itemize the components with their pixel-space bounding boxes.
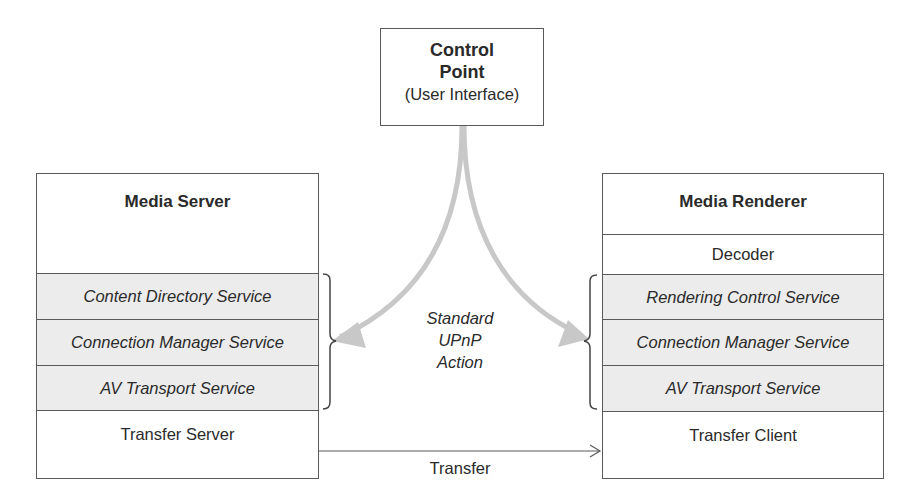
- control-point-subtitle: (User Interface): [381, 83, 543, 105]
- action-label: Standard UPnP Action: [400, 307, 520, 373]
- media-server-title: Media Server: [37, 174, 318, 273]
- service-connection-manager: Connection Manager Service: [603, 319, 883, 365]
- control-point-title: Control Point: [417, 39, 507, 83]
- service-connection-manager: Connection Manager Service: [37, 319, 318, 365]
- action-arrow-right: [464, 126, 580, 334]
- transfer-server: Transfer Server: [37, 410, 318, 477]
- service-content-directory: Content Directory Service: [37, 273, 318, 319]
- decoder: Decoder: [603, 234, 883, 274]
- transfer-label: Transfer: [400, 459, 520, 478]
- media-renderer-title: Media Renderer: [603, 174, 883, 234]
- control-point-box: Control Point (User Interface): [380, 28, 544, 126]
- action-label-line2: UPnP: [400, 329, 520, 351]
- transfer-client: Transfer Client: [603, 411, 883, 477]
- media-renderer-box: Media Renderer Decoder Rendering Control…: [602, 173, 884, 479]
- action-label-line3: Action: [400, 351, 520, 373]
- service-av-transport: AV Transport Service: [603, 365, 883, 411]
- action-arrow-left: [340, 126, 462, 337]
- action-label-line1: Standard: [400, 307, 520, 329]
- brace-left: [323, 274, 336, 409]
- media-server-box: Media Server Content Directory Service C…: [36, 173, 319, 479]
- service-rendering-control: Rendering Control Service: [603, 274, 883, 319]
- brace-right: [584, 275, 597, 409]
- service-av-transport: AV Transport Service: [37, 365, 318, 410]
